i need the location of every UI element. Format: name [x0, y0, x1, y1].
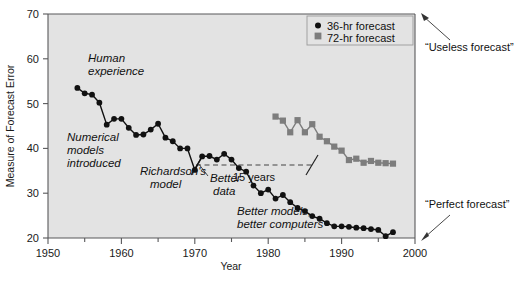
x-tick-label: 1960 — [109, 247, 133, 259]
x-tick-label: 2000 — [403, 247, 427, 259]
annot-line: experience — [88, 65, 144, 77]
y-axis-title: Measure of Forecast Error — [4, 64, 16, 187]
data-point-marker — [148, 127, 154, 133]
data-point-marker — [331, 223, 337, 229]
data-point-marker — [346, 157, 352, 163]
data-point-marker — [390, 229, 396, 235]
data-point-marker — [89, 92, 95, 98]
x-tick-label: 1990 — [329, 247, 353, 259]
data-point-marker — [324, 138, 330, 144]
chart-canvas: 203040506070 195019601970198019902000 Me… — [0, 0, 522, 283]
data-point-marker — [361, 225, 367, 231]
data-point-marker — [133, 132, 139, 138]
data-point-marker — [126, 125, 132, 131]
chart-legend: 36-hr forecast 72-hr forecast — [307, 16, 413, 45]
data-point-marker — [163, 135, 169, 141]
annot-line: Better models, — [237, 205, 311, 217]
data-point-marker — [265, 187, 271, 193]
arrowhead-icon — [421, 232, 429, 241]
data-point-marker — [383, 233, 389, 239]
data-point-marker — [229, 157, 235, 163]
y-tick-label: 40 — [27, 142, 39, 154]
annot-line: models — [67, 144, 104, 156]
y-axis-ticks: 203040506070 — [27, 8, 48, 244]
x-tick-label: 1980 — [256, 247, 280, 259]
data-point-marker — [368, 158, 374, 164]
annot-line: Numerical — [67, 131, 119, 143]
data-point-marker — [258, 190, 264, 196]
data-point-marker — [74, 85, 80, 91]
y-tick-label: 50 — [27, 98, 39, 110]
annot-line: introduced — [67, 157, 121, 169]
legend-marker-square-icon — [315, 33, 322, 40]
data-point-marker — [383, 160, 389, 166]
data-point-marker — [272, 113, 278, 119]
data-point-marker — [273, 196, 279, 202]
data-point-marker — [346, 224, 352, 230]
data-point-marker — [294, 117, 300, 123]
data-point-marker — [339, 148, 345, 154]
data-point-marker — [170, 138, 176, 144]
annot-line: model — [150, 178, 182, 190]
annot-line: Human — [88, 52, 125, 64]
annotation-fifteen-years: 15 years — [233, 171, 276, 183]
annot-line: Richardson's — [140, 165, 206, 177]
data-point-marker — [368, 226, 374, 232]
data-point-marker — [119, 116, 125, 122]
x-axis-minor-ticks — [85, 238, 379, 242]
data-point-marker — [316, 134, 322, 140]
legend-label-36hr: 36-hr forecast — [327, 20, 395, 32]
y-tick-label: 20 — [27, 232, 39, 244]
callout-perfect-forecast: “Perfect forecast” — [421, 198, 510, 241]
data-point-marker — [353, 156, 359, 162]
data-point-marker — [280, 192, 286, 198]
data-point-marker — [221, 151, 227, 157]
data-point-marker — [185, 146, 191, 152]
y-tick-label: 60 — [27, 53, 39, 65]
data-point-marker — [375, 227, 381, 233]
y-tick-label: 70 — [27, 8, 39, 20]
y-tick-label: 30 — [27, 187, 39, 199]
data-point-marker — [177, 146, 183, 152]
data-point-marker — [199, 154, 205, 160]
legend-label-72hr: 72-hr forecast — [327, 32, 395, 44]
data-point-marker — [353, 225, 359, 231]
x-tick-label: 1950 — [36, 247, 60, 259]
data-point-marker — [207, 153, 213, 159]
callout-useless-forecast: “Useless forecast” — [421, 13, 514, 53]
plot-area-background — [48, 14, 415, 238]
data-point-marker — [96, 100, 102, 106]
data-point-marker — [111, 116, 117, 122]
label-perfect-forecast: “Perfect forecast” — [425, 198, 510, 210]
data-point-marker — [155, 121, 161, 127]
x-tick-label: 1970 — [183, 247, 207, 259]
forecast-error-chart-figure: 203040506070 195019601970198019902000 Me… — [0, 0, 522, 283]
data-point-marker — [214, 157, 220, 163]
x-axis-title: Year — [220, 260, 242, 272]
data-point-marker — [331, 144, 337, 150]
data-point-marker — [390, 161, 396, 167]
data-point-marker — [324, 220, 330, 226]
data-point-marker — [251, 183, 257, 189]
annot-line: better computers — [237, 218, 324, 230]
data-point-marker — [280, 118, 286, 124]
data-point-marker — [309, 121, 315, 127]
data-point-marker — [141, 132, 147, 138]
annotation-better-models-better-computers: Better models, better computers — [237, 205, 324, 230]
data-point-marker — [82, 90, 88, 96]
data-point-marker — [375, 160, 381, 166]
annot-line: data — [213, 185, 235, 197]
data-point-marker — [361, 160, 367, 166]
data-point-marker — [287, 129, 293, 135]
data-point-marker — [302, 129, 308, 135]
label-useless-forecast: “Useless forecast” — [425, 41, 514, 53]
legend-marker-circle-icon — [315, 23, 321, 29]
data-point-marker — [339, 223, 345, 229]
data-point-marker — [104, 122, 110, 128]
